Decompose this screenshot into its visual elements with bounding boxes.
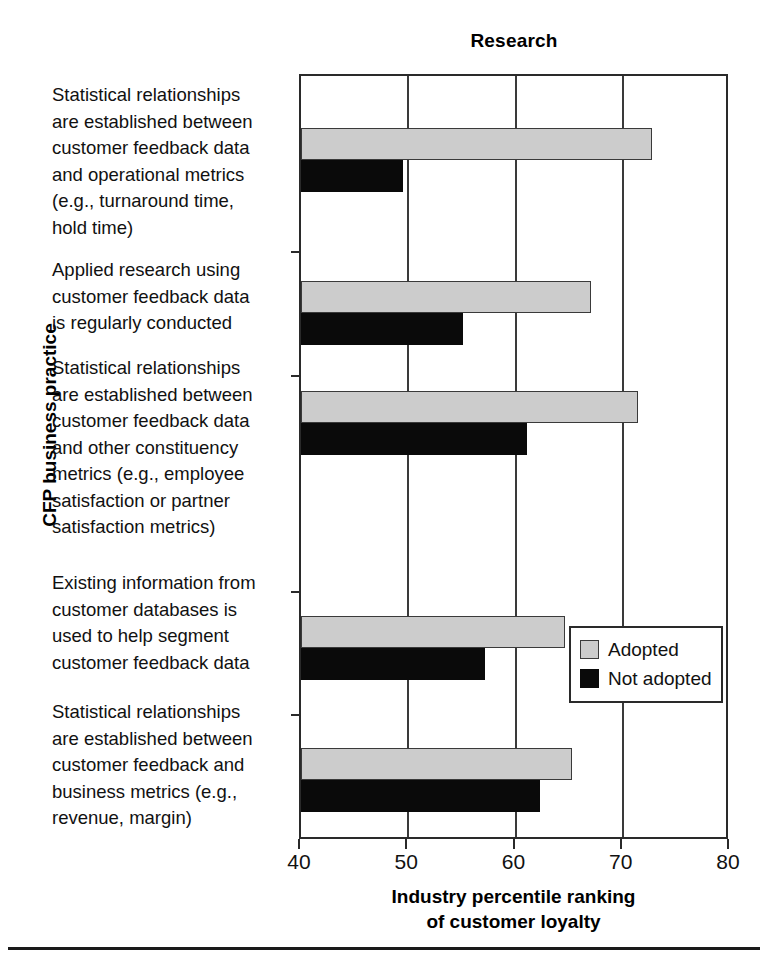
bar-adopted — [301, 128, 652, 160]
category-label-line: Existing information from — [52, 570, 292, 597]
category-label: Statistical relationshipsare established… — [52, 355, 292, 541]
category-label-line: satisfaction metrics) — [52, 514, 292, 541]
x-tick-label: 40 — [269, 850, 329, 874]
category-label-line: metrics (e.g., employee — [52, 461, 292, 488]
category-label-line: are established between — [52, 382, 292, 409]
bar-adopted — [301, 391, 638, 423]
category-label-line: used to help segment — [52, 623, 292, 650]
footer-divider — [8, 947, 760, 950]
category-label-line: Applied research using — [52, 257, 292, 284]
category-label-line: customer feedback data — [52, 650, 292, 677]
x-tick-label: 50 — [376, 850, 436, 874]
bar-not-adopted — [301, 160, 403, 192]
category-label: Statistical relationshipsare established… — [52, 699, 292, 832]
category-label: Existing information fromcustomer databa… — [52, 570, 292, 676]
chart-legend: AdoptedNot adopted — [569, 626, 723, 703]
category-label-line: are established between — [52, 726, 292, 753]
x-tick-label: 60 — [484, 850, 544, 874]
x-tick-mark — [405, 839, 407, 849]
category-label-line: revenue, margin) — [52, 805, 292, 832]
legend-item[interactable]: Not adopted — [580, 664, 712, 693]
category-label-line: satisfaction or partner — [52, 488, 292, 515]
x-axis-title-line2: of customer loyalty — [299, 909, 728, 934]
category-separator-tick — [291, 591, 301, 593]
category-label-line: Statistical relationships — [52, 355, 292, 382]
category-label-line: customer databases is — [52, 597, 292, 624]
x-axis-title: Industry percentile ranking of customer … — [299, 884, 728, 934]
category-label-line: Statistical relationships — [52, 699, 292, 726]
category-label-line: customer feedback data — [52, 408, 292, 435]
plot-area — [299, 74, 728, 839]
category-label-line: and operational metrics — [52, 162, 292, 189]
legend-swatch-adopted-icon — [580, 640, 599, 659]
bar-adopted — [301, 281, 591, 313]
category-separator-tick — [291, 714, 301, 716]
category-label-line: Statistical relationships — [52, 82, 292, 109]
category-label-line: customer feedback data — [52, 284, 292, 311]
x-tick-mark — [620, 839, 622, 849]
chart-figure: Research CFP business practice Statistic… — [0, 0, 768, 975]
bar-group — [301, 375, 726, 591]
category-label-line: and other constituency — [52, 435, 292, 462]
bar-not-adopted — [301, 313, 463, 345]
bar-not-adopted — [301, 780, 540, 812]
category-label-line: is regularly conducted — [52, 310, 292, 337]
x-axis-title-line1: Industry percentile ranking — [299, 884, 728, 909]
legend-label: Not adopted — [608, 668, 712, 690]
bar-adopted — [301, 748, 572, 780]
x-tick-mark — [513, 839, 515, 849]
bar-not-adopted — [301, 423, 527, 455]
category-label-line: hold time) — [52, 215, 292, 242]
category-label-line: customer feedback data — [52, 135, 292, 162]
bar-not-adopted — [301, 648, 485, 680]
category-label-line: customer feedback and — [52, 752, 292, 779]
category-label-line: are established between — [52, 109, 292, 136]
legend-label: Adopted — [608, 639, 679, 661]
x-tick-label: 70 — [591, 850, 651, 874]
category-separator-tick — [291, 251, 301, 253]
x-tick-mark — [727, 839, 729, 849]
legend-swatch-not-adopted-icon — [580, 669, 599, 688]
legend-item[interactable]: Adopted — [580, 635, 712, 664]
category-label-line: business metrics (e.g., — [52, 779, 292, 806]
chart-title: Research — [299, 30, 729, 52]
x-tick-label: 80 — [698, 850, 758, 874]
category-label: Applied research usingcustomer feedback … — [52, 257, 292, 337]
category-label: Statistical relationshipsare established… — [52, 82, 292, 241]
bar-adopted — [301, 616, 565, 648]
bar-group — [301, 76, 726, 251]
bar-group — [301, 251, 726, 375]
x-tick-mark — [298, 839, 300, 849]
bar-group — [301, 714, 726, 841]
category-label-line: (e.g., turnaround time, — [52, 188, 292, 215]
category-separator-tick — [291, 375, 301, 377]
